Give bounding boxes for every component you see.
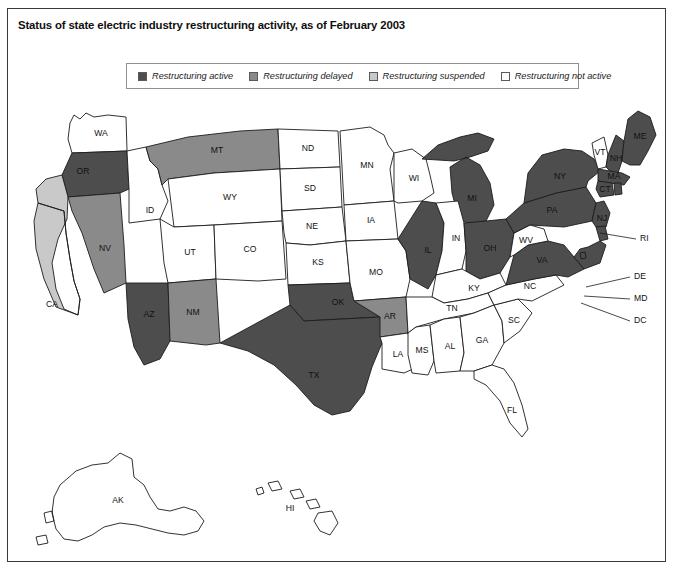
leader-line-de bbox=[586, 277, 630, 287]
state-label-il: IL bbox=[424, 245, 431, 255]
leader-line-dc bbox=[581, 303, 630, 321]
state-label-wa: WA bbox=[94, 128, 108, 138]
state-label-ms: MS bbox=[416, 345, 429, 355]
legend-swatch-not-active bbox=[501, 72, 510, 81]
legend-label-active: Restructuring active bbox=[152, 71, 233, 81]
legend-item-not-active: Restructuring not active bbox=[501, 71, 612, 81]
state-label-ky: KY bbox=[468, 283, 480, 293]
state-label-nc: NC bbox=[524, 281, 536, 291]
state-label-va: VA bbox=[537, 255, 548, 265]
state-label-wi: WI bbox=[409, 173, 420, 183]
state-label-nd: ND bbox=[302, 143, 314, 153]
state-label-ct: CT bbox=[599, 184, 611, 194]
state-hi[interactable] bbox=[256, 481, 338, 535]
legend-swatch-delayed bbox=[249, 72, 258, 81]
state-label-ca: CA bbox=[46, 299, 58, 309]
legend-swatch-active bbox=[138, 72, 147, 81]
state-label-vt: VT bbox=[595, 147, 607, 157]
state-label-oh: OH bbox=[484, 243, 497, 253]
legend-label-delayed: Restructuring delayed bbox=[263, 71, 352, 81]
state-label-nv: NV bbox=[99, 243, 111, 253]
state-label-in: IN bbox=[452, 233, 461, 243]
state-label-ok: OK bbox=[332, 297, 345, 307]
state-label-tx: TX bbox=[309, 370, 320, 380]
state-ri[interactable] bbox=[614, 183, 622, 195]
state-label-ak: AK bbox=[112, 495, 124, 505]
legend-label-not-active: Restructuring not active bbox=[515, 71, 612, 81]
callout-label-ri: RI bbox=[640, 233, 649, 243]
us-choropleth-map: WAORCANVIDMTWYUTAZNMCONDSDNEKSOKTXMNIAMO… bbox=[8, 93, 665, 561]
state-or[interactable] bbox=[62, 151, 129, 197]
state-label-ut: UT bbox=[184, 247, 196, 257]
state-label-id: ID bbox=[146, 205, 155, 215]
state-label-mn: MN bbox=[360, 160, 373, 170]
state-fl[interactable] bbox=[474, 365, 528, 437]
page-title: Status of state electric industry restru… bbox=[18, 19, 405, 31]
state-label-ar: AR bbox=[384, 311, 396, 321]
state-label-co: CO bbox=[244, 244, 257, 254]
state-label-nj: NJ bbox=[597, 213, 608, 223]
callout-label-de: DE bbox=[634, 271, 646, 281]
state-label-me: ME bbox=[634, 131, 647, 141]
state-label-wv: WV bbox=[519, 235, 533, 245]
state-label-ks: KS bbox=[312, 257, 324, 267]
state-label-fl: FL bbox=[507, 405, 517, 415]
leader-line-md bbox=[584, 296, 630, 299]
state-label-al: AL bbox=[445, 341, 456, 351]
state-label-ga: GA bbox=[476, 335, 489, 345]
state-label-ne: NE bbox=[306, 221, 318, 231]
state-label-wy: WY bbox=[223, 192, 237, 202]
state-az[interactable] bbox=[126, 283, 170, 365]
callout-label-dc: DC bbox=[634, 315, 646, 325]
legend-swatch-suspended bbox=[369, 72, 378, 81]
state-label-sd: SD bbox=[304, 183, 316, 193]
state-label-nh: NH bbox=[610, 153, 622, 163]
legend-label-suspended: Restructuring suspended bbox=[383, 71, 485, 81]
state-label-sc: SC bbox=[508, 315, 520, 325]
state-label-ia: IA bbox=[367, 215, 375, 225]
state-label-la: LA bbox=[393, 349, 404, 359]
state-tx[interactable] bbox=[220, 305, 382, 415]
state-label-ny: NY bbox=[554, 171, 566, 181]
state-label-az: AZ bbox=[144, 309, 155, 319]
state-dc[interactable] bbox=[580, 252, 586, 259]
state-label-ma: MA bbox=[608, 171, 621, 181]
state-label-mi: MI bbox=[467, 193, 477, 203]
map-svg: WAORCANVIDMTWYUTAZNMCONDSDNEKSOKTXMNIAMO… bbox=[8, 93, 665, 561]
state-label-mo: MO bbox=[369, 267, 383, 277]
figure-panel: Status of state electric industry restru… bbox=[7, 8, 666, 562]
legend: Restructuring active Restructuring delay… bbox=[126, 63, 579, 89]
state-label-nm: NM bbox=[186, 307, 199, 317]
state-label-pa: PA bbox=[547, 205, 558, 215]
state-label-tn: TN bbox=[446, 303, 457, 313]
legend-item-active: Restructuring active bbox=[138, 71, 233, 81]
legend-item-suspended: Restructuring suspended bbox=[369, 71, 485, 81]
state-label-mt: MT bbox=[211, 145, 224, 155]
callout-label-md: MD bbox=[634, 293, 647, 303]
state-nv[interactable] bbox=[68, 193, 126, 293]
state-label-hi: HI bbox=[286, 503, 295, 513]
state-label-or: OR bbox=[77, 166, 90, 176]
legend-item-delayed: Restructuring delayed bbox=[249, 71, 352, 81]
